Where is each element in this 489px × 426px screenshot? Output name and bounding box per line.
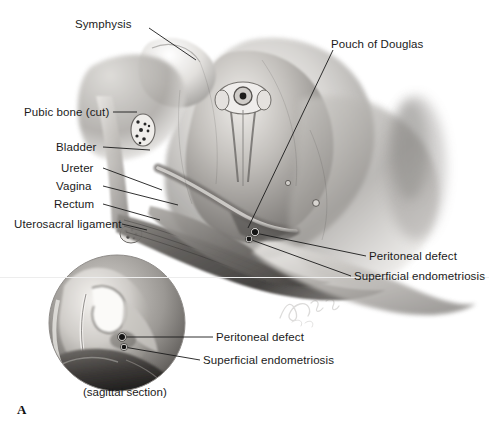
label-superficial-endometriosis-main: Superficial endometriosis xyxy=(354,270,485,283)
label-peritoneal-defect-main: Peritoneal defect xyxy=(369,250,457,263)
endometriosis-figure-panel-a: SymphysisPubic bone (cut)BladderUreterVa… xyxy=(0,0,489,426)
label-rectum: Rectum xyxy=(54,198,94,211)
lesion-main-upper xyxy=(252,229,258,235)
inset-sagittal-section xyxy=(44,255,188,394)
artist-signature xyxy=(280,299,339,327)
inset-caption: (sagittal section) xyxy=(83,386,167,398)
lesion-inset-lower xyxy=(122,345,127,350)
label-ureter: Ureter xyxy=(61,162,94,175)
panel-letter: A xyxy=(17,402,26,418)
label-symphysis: Symphysis xyxy=(75,18,132,31)
label-bladder: Bladder xyxy=(56,141,96,154)
label-superficial-endometriosis-inset: Superficial endometriosis xyxy=(203,354,334,367)
label-pubic-bone-cut: Pubic bone (cut) xyxy=(24,106,109,119)
lesion-main-lower xyxy=(247,237,252,242)
label-pouch-of-douglas: Pouch of Douglas xyxy=(331,38,423,51)
label-vagina: Vagina xyxy=(56,180,92,193)
label-peritoneal-defect-inset: Peritoneal defect xyxy=(216,331,304,344)
label-uterosacral-ligament: Uterosacral ligament xyxy=(14,218,121,231)
lesion-inset-upper xyxy=(119,334,125,340)
